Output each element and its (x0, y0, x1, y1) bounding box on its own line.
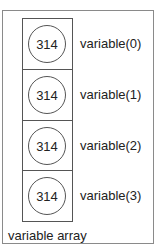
element-label-1: variable(1) (80, 87, 141, 102)
element-label-3: variable(3) (80, 188, 141, 203)
element-label-2: variable(2) (80, 138, 141, 153)
array-column: 314 314 314 314 (22, 18, 73, 222)
value-circle-1: 314 (28, 76, 66, 114)
array-cell-3: 314 (23, 170, 72, 221)
array-cell-1: 314 (23, 69, 72, 120)
value-circle-2: 314 (28, 127, 66, 165)
value-circle-0: 314 (28, 25, 66, 63)
array-cell-2: 314 (23, 120, 72, 171)
value-circle-3: 314 (28, 177, 66, 215)
array-caption: variable array (8, 228, 87, 243)
element-label-0: variable(0) (80, 36, 141, 51)
array-cell-0: 314 (23, 19, 72, 70)
